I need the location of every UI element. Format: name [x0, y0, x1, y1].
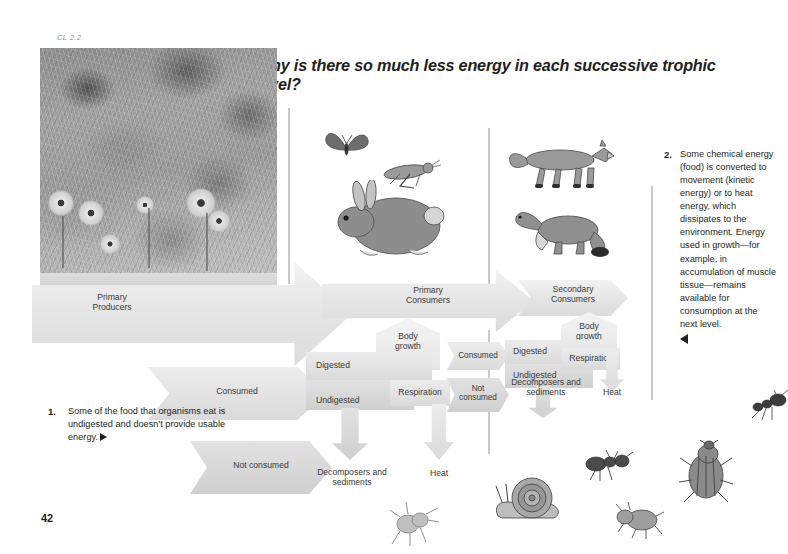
fly-illustration	[382, 500, 440, 548]
ant-illustration	[584, 450, 634, 482]
flow-label-respiration-primary: Respiration	[390, 388, 450, 398]
fox-illustration	[508, 140, 614, 192]
chapter-tag: CL 2.2	[57, 33, 81, 42]
note-2-pointer-icon	[680, 334, 688, 344]
flow-digested-primary: Digested	[306, 352, 432, 380]
trophic-label-primary-consumers: Primary Consumers	[322, 286, 534, 306]
flow-label-decomposers-secondary: Decomposers and sediments	[496, 378, 596, 398]
trophic-arrow-secondary-consumers: Secondary Consumers	[518, 280, 628, 316]
rabbit-illustration	[330, 180, 450, 262]
ant-edge-illustration	[752, 390, 788, 422]
flow-label-heat-secondary: Heat	[588, 387, 636, 397]
flow-arrow-heat-primary	[424, 404, 454, 460]
flow-label-digested-primary: Digested	[316, 361, 432, 371]
note-2-number: 2.	[664, 148, 672, 162]
flow-arrow-decomposers-primary	[332, 408, 368, 460]
divider-rule-2	[488, 128, 490, 296]
divider-rule-4	[651, 186, 653, 400]
note-1: 1. Some of the food that organisms eat i…	[48, 405, 226, 444]
beetle-small-illustration	[612, 500, 666, 540]
note-1-number: 1.	[48, 405, 56, 419]
flow-label-consumed-primary: Consumed	[447, 351, 509, 360]
flow-label-body-growth-secondary: Body growth	[561, 322, 617, 342]
meadow-photo	[40, 48, 277, 273]
textbook-page: CL 2.2 Why is there so much less energy …	[0, 0, 788, 554]
flow-label-body-growth-primary: Body growth	[376, 332, 440, 352]
snail-illustration	[492, 474, 568, 524]
note-1-pointer-icon	[100, 433, 107, 441]
weasel-illustration	[512, 202, 612, 260]
divider-rule-5	[488, 430, 490, 454]
flow-label-consumed-producers: Consumed	[148, 387, 326, 397]
note-2: 2. Some chemical energy (food) is conver…	[664, 148, 776, 344]
flow-consumed-primary: Consumed	[447, 342, 509, 370]
flow-respiration-primary: Respiration	[390, 380, 450, 406]
beetle-large-illustration	[678, 440, 734, 504]
divider-rule-1	[288, 108, 290, 284]
note-2-text: Some chemical energy (food) is converted…	[664, 148, 776, 331]
page-number: 42	[41, 512, 53, 524]
butterfly-illustration	[324, 128, 370, 162]
photo-texture	[40, 48, 277, 273]
flow-label-decomposers-primary: Decomposers and sediments	[300, 468, 404, 488]
page-title: Why is there so much less energy in each…	[256, 56, 756, 95]
trophic-arrow-primary-consumers: Primary Consumers	[322, 270, 534, 332]
trophic-label-primary-producers: Primary Producers	[52, 293, 172, 313]
note-1-text: Some of the food that organisms eat is u…	[48, 405, 226, 444]
trophic-label-secondary-consumers: Secondary Consumers	[518, 285, 628, 305]
flow-label-heat-primary: Heat	[414, 468, 464, 478]
